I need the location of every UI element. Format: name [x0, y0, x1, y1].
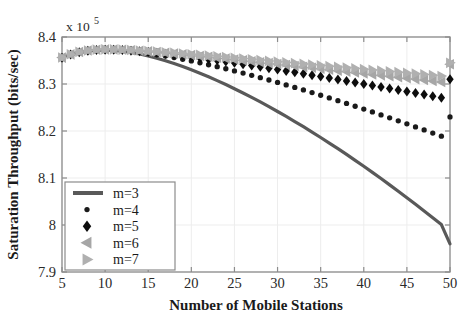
saturation-throughput-chart: 51015202530354045507.988.18.28.38.4 x 10… [0, 0, 476, 320]
x-tick-label: 30 [270, 275, 285, 291]
y-tick-label: 7.9 [38, 264, 56, 280]
legend-label: m=7 [113, 252, 139, 267]
x-tick-label: 25 [227, 275, 242, 291]
legend-label: m=5 [113, 219, 139, 234]
series-marker [318, 93, 323, 98]
series-marker [439, 134, 444, 139]
x-tick-label: 50 [443, 275, 458, 291]
y-axis-title: Saturation Throughput (bits/sec) [5, 49, 22, 259]
series-marker [240, 70, 245, 75]
series-marker [335, 98, 340, 103]
series-marker [249, 73, 254, 78]
series-marker [447, 114, 452, 119]
chart-legend[interactable]: m=3m=4m=5m=6m=7 [65, 182, 175, 270]
series-marker [292, 85, 297, 90]
series-marker [266, 77, 271, 82]
series-marker [421, 127, 426, 132]
legend-swatch-marker [84, 207, 89, 212]
y-tick-label: 8.1 [38, 170, 56, 186]
series-marker [258, 75, 263, 80]
y-tick-label: 8.4 [38, 29, 57, 45]
y-tick-label: 8.3 [38, 76, 56, 92]
x-tick-label: 10 [98, 275, 113, 291]
series-marker [370, 109, 375, 114]
series-marker [275, 80, 280, 85]
series-marker [430, 130, 435, 135]
series-marker [309, 90, 314, 95]
series-marker [387, 115, 392, 120]
series-marker [301, 87, 306, 92]
series-marker [344, 101, 349, 106]
series-marker [396, 118, 401, 123]
y-tick-label: 8 [49, 217, 56, 233]
series-marker [223, 66, 228, 71]
x-axis-title: Number of Mobile Stations [169, 297, 343, 313]
chart-figure: 51015202530354045507.988.18.28.38.4 x 10… [0, 0, 476, 320]
x-tick-label: 20 [184, 275, 199, 291]
x-tick-label: 5 [58, 275, 65, 291]
legend-label: m=3 [113, 186, 139, 201]
x-tick-label: 15 [141, 275, 156, 291]
y-axis-exponent-label: x 10 [66, 19, 90, 34]
x-tick-label: 35 [313, 275, 328, 291]
series-marker [232, 68, 237, 73]
x-tick-label: 45 [400, 275, 415, 291]
legend-label: m=4 [113, 203, 139, 218]
legend-label: m=6 [113, 236, 139, 251]
y-tick-label: 8.2 [38, 123, 56, 139]
x-tick-label: 40 [357, 275, 372, 291]
series-marker [413, 124, 418, 129]
series-marker [327, 95, 332, 100]
series-marker [378, 112, 383, 117]
series-marker [361, 106, 366, 111]
y-axis-exponent-power: 5 [94, 15, 99, 26]
series-marker [284, 82, 289, 87]
series-marker [404, 121, 409, 126]
series-marker [353, 104, 358, 109]
